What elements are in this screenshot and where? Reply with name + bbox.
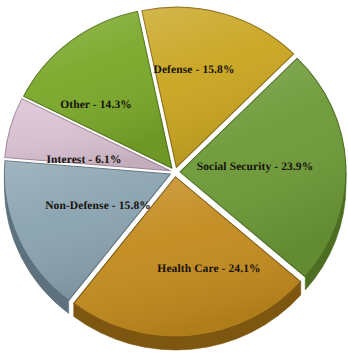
pie-chart-figure: Defense - 15.8%Social Security - 23.9%He… bbox=[0, 0, 348, 364]
pie-chart-canvas bbox=[0, 0, 348, 364]
pie-sheen-layer bbox=[4, 7, 346, 337]
